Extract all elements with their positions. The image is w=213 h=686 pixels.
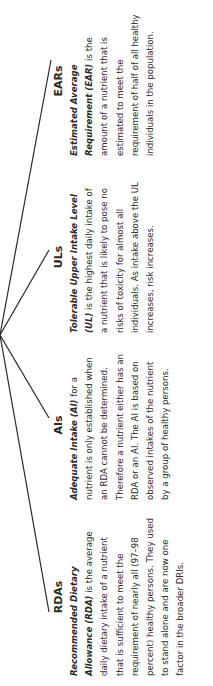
diagram-rotated: RDAs Recommended Dietary Allowance (RDA)… bbox=[0, 0, 213, 686]
definition-ears: Estimated Average Requirement (EAR) is t… bbox=[67, 6, 158, 156]
heading-uls: ULs bbox=[52, 181, 66, 333]
definition-uls: Tolerable Upper Intake Level (UL) is the… bbox=[67, 181, 158, 333]
branch-ears: EARs Estimated Average Requirement (EAR)… bbox=[52, 6, 158, 156]
definition-ais: Adequate Intake (AI) for a nutrient is o… bbox=[67, 350, 173, 500]
branch-rdas: RDAs Recommended Dietary Allowance (RDA)… bbox=[52, 518, 189, 676]
definition-rdas: Recommended Dietary Allowance (RDA) is t… bbox=[67, 518, 189, 676]
branch-uls: ULs Tolerable Upper Intake Level (UL) is… bbox=[52, 181, 158, 333]
branch-ais: AIs Adequate Intake (AI) for a nutrient … bbox=[52, 350, 173, 500]
heading-rdas: RDAs bbox=[52, 518, 66, 676]
heading-ais: AIs bbox=[52, 350, 66, 500]
heading-ears: EARs bbox=[52, 6, 66, 156]
